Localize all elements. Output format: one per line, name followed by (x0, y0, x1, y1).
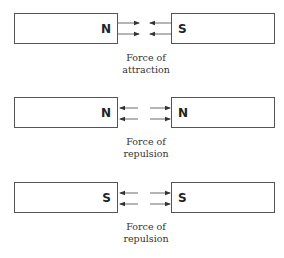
repulsion-arrows-row2 (120, 108, 170, 119)
attraction-arrows (118, 23, 172, 34)
magnet-diagram: N S Force of attraction N N Force of rep… (0, 0, 284, 258)
repulsion-arrows-row3 (120, 193, 170, 204)
force-arrows (0, 0, 284, 258)
